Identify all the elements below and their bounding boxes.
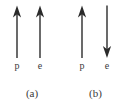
spin-orientation-figure: p e (a) p e (b) [0, 0, 127, 109]
panel-caption-a: (a) [0, 87, 64, 100]
arrow-down-icon [99, 3, 115, 61]
spin-label-electron-a: e [32, 60, 48, 72]
arrow-up-icon [74, 3, 90, 61]
spin-label-electron-b: e [99, 60, 115, 72]
panel-a: p e (a) [0, 0, 64, 109]
spin-label-proton-a: p [9, 60, 25, 72]
panel-b: p e (b) [64, 0, 127, 109]
arrow-up-icon [9, 3, 25, 61]
arrow-up-icon [32, 3, 48, 61]
panel-caption-b: (b) [64, 87, 127, 100]
spin-label-proton-b: p [74, 60, 90, 72]
